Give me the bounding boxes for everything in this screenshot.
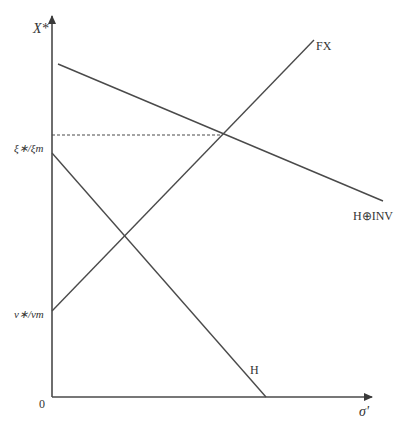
diagram-canvas: X* σ' 0 ξ∗/ξm ν∗/νm FX H⊕INV H (0, 0, 404, 427)
h-line-label: H (250, 364, 259, 376)
origin-label: 0 (39, 398, 45, 410)
h-inv-line (58, 64, 383, 201)
h-line (52, 153, 266, 397)
fx-line-label: FX (316, 40, 331, 52)
y-axis-label: X* (33, 22, 49, 36)
x-axis-label: σ' (359, 405, 369, 419)
h-inv-line-label: H⊕INV (353, 210, 393, 222)
diagram-svg (0, 0, 404, 427)
y-tick-nu-label: ν∗/νm (14, 309, 44, 320)
y-tick-xi-label: ξ∗/ξm (14, 143, 43, 154)
fx-line (52, 40, 314, 311)
